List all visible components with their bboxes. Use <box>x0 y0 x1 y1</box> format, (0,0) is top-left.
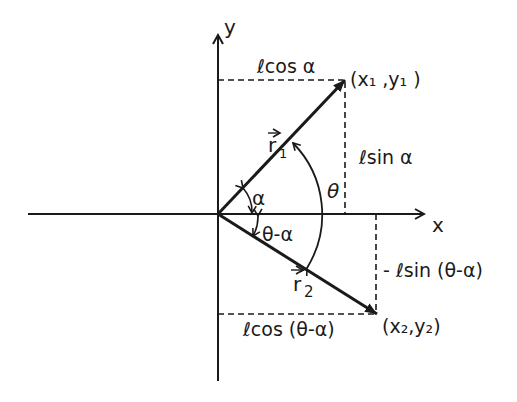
r1-label-base: r <box>268 133 277 157</box>
r2-vertical-projection-label: - ℓsin (θ-α) <box>383 259 483 281</box>
vector-r2 <box>218 214 377 314</box>
r2-tip-coordinates: (x₂,y₂) <box>382 315 441 337</box>
theta-minus-alpha-label: θ-α <box>262 223 293 245</box>
y-axis-label: y <box>224 15 236 39</box>
theta-arc <box>293 143 322 268</box>
r2-label: r 2 <box>291 270 314 301</box>
theta-minus-alpha-arc <box>253 216 258 236</box>
r2-label-base: r <box>293 272 302 296</box>
diagram-canvas: y x r 1 r 2 (x₁ ,y₁ ) (x₂,y₂) α θ θ-α ℓc… <box>0 0 517 402</box>
r1-label: r 1 <box>268 133 287 161</box>
r1-vertical-projection-label: ℓsin α <box>358 146 413 168</box>
r1-tip-coordinates: (x₁ ,y₁ ) <box>350 68 421 90</box>
alpha-arc <box>243 188 252 213</box>
rotation-diagram: y x r 1 r 2 (x₁ ,y₁ ) (x₂,y₂) α θ θ-α ℓc… <box>0 0 517 402</box>
x-axis-label: x <box>432 213 444 237</box>
theta-label: θ <box>327 179 339 203</box>
r2-label-subscript: 2 <box>304 283 314 301</box>
r1-label-subscript: 1 <box>279 146 287 161</box>
r2-horizontal-projection-label: ℓcos (θ-α) <box>242 318 335 340</box>
r1-horizontal-projection-label: ℓcos α <box>256 55 315 77</box>
alpha-label: α <box>252 186 265 210</box>
